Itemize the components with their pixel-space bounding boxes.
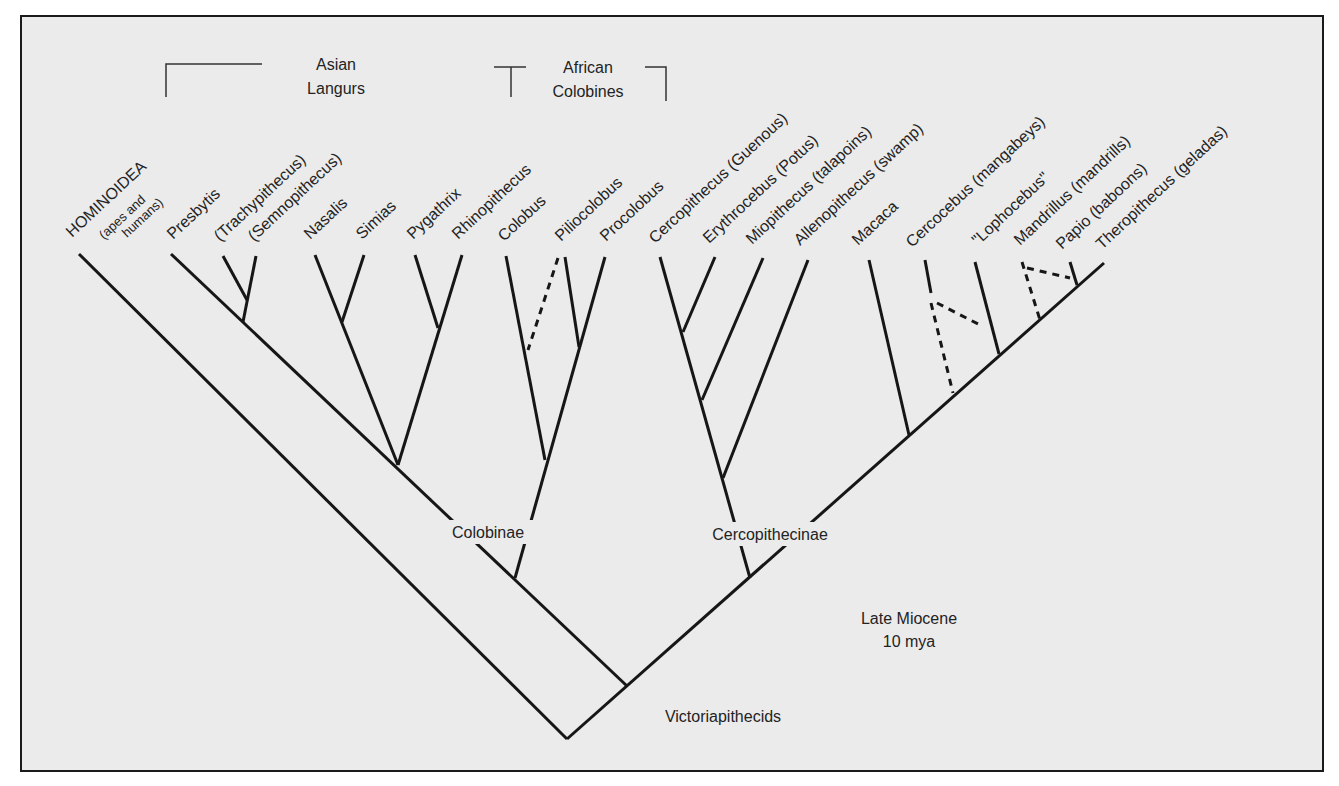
clade-label-colobinae: Colobinae <box>452 524 524 541</box>
asian-langurs-bracket <box>166 64 262 97</box>
taxon-label-nasalis: Nasalis <box>300 194 350 242</box>
taxon-labels: HOMINOIDEA (apes and humans) Presbytis (… <box>62 109 1230 252</box>
phylogeny-diagram: Asian Langurs African Colobines <box>0 0 1339 786</box>
group-label-asian: Asian <box>316 56 356 73</box>
tree-edges <box>79 254 1104 739</box>
group-label-african: African <box>563 59 613 76</box>
clade-label-cercopithecinae: Cercopithecinae <box>712 526 828 543</box>
taxon-label-simias: Simias <box>352 197 399 242</box>
clade-label-victoriapithecids: Victoriapithecids <box>665 708 781 725</box>
time-label-age: 10 mya <box>883 633 936 650</box>
time-label-epoch: Late Miocene <box>861 610 957 627</box>
group-label-colobines: Colobines <box>552 83 623 100</box>
group-label-langurs: Langurs <box>307 80 365 97</box>
taxon-label-rhinopithecus: Rhinopithecus <box>448 161 534 243</box>
taxon-label-macaca: Macaca <box>848 197 901 248</box>
